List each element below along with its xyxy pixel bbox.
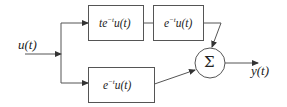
block-top-1-tail: u(t) [114, 17, 131, 29]
block-bottom-tail: u(t) [115, 79, 132, 91]
diagram-canvas [0, 0, 287, 107]
block-bottom-exponent: −t [108, 78, 115, 86]
block-top-1-exponent: −t [107, 16, 114, 24]
sigma-symbol: Σ [204, 55, 215, 70]
block-top-2-label: e−tu(t) [164, 17, 192, 30]
bottom-to-summer-line [155, 70, 196, 84]
input-label: u(t) [18, 38, 37, 51]
block-top-2-exponent: −t [169, 16, 176, 24]
block-top-1-label: te−tu(t) [99, 17, 131, 30]
top-to-summer-line [204, 23, 222, 47]
block-top-2-tail: u(t) [176, 17, 193, 29]
block-bottom-label: e−tu(t) [103, 79, 131, 92]
output-label: y(t) [251, 64, 269, 77]
block-diagram: u(t) te−tu(t) e−tu(t) e−tu(t) Σ y(t) [0, 0, 287, 107]
